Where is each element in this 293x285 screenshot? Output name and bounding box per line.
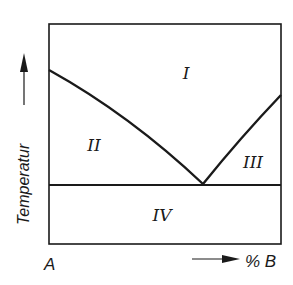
up-arrow-icon — [20, 53, 28, 72]
region-label-I: I — [182, 63, 190, 83]
region-label-IV: IV — [152, 205, 174, 225]
left-liquidus-line — [49, 70, 203, 184]
region-label-III: III — [242, 152, 263, 172]
x-axis-right-label: % B — [245, 252, 276, 271]
x-axis-left-label: A — [43, 255, 55, 274]
region-label-II: II — [86, 135, 101, 155]
y-axis-label: Temperatur — [15, 143, 32, 225]
y-axis-label-group: Temperatur — [15, 53, 32, 225]
x-axis-arrow-group — [192, 255, 240, 263]
phase-diagram: I II III IV Temperatur A % B — [0, 0, 293, 285]
right-arrow-icon — [222, 255, 240, 263]
